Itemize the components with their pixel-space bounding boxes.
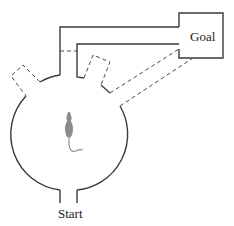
arena-wall-left — [11, 96, 60, 190]
dashed-path-upper — [110, 49, 179, 93]
arena-wall-top-left — [40, 75, 60, 82]
right-dashed-arm — [84, 55, 110, 85]
goal-label: Goal — [190, 29, 216, 44]
dashed-path-lower — [120, 58, 193, 106]
left-dashed-arm — [11, 65, 40, 96]
start-label: Start — [58, 206, 83, 221]
corridor-inner-wall — [77, 44, 179, 78]
rat-icon — [65, 112, 83, 151]
maze-diagram: Goal Start — [0, 0, 234, 226]
corridor-outer-wall — [60, 27, 179, 75]
arena-wall-top-right — [101, 85, 110, 93]
arena-wall-right — [77, 106, 128, 190]
